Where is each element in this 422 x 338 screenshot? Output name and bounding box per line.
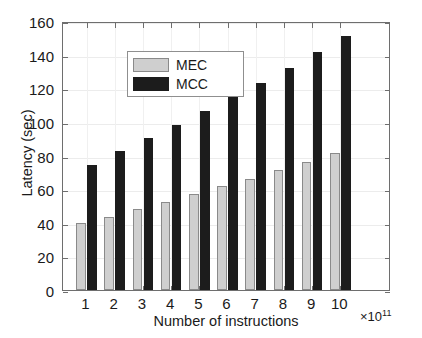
bar-mec-3 (133, 209, 143, 290)
plot-area: MEC MCC (62, 22, 390, 291)
legend-swatch-mec-icon (133, 58, 169, 72)
x-tick-mark (228, 23, 229, 28)
x-tick-mark (256, 23, 257, 28)
y-tick-mark (63, 57, 68, 58)
x-tick-mark (284, 23, 285, 28)
y-tick-mark (63, 225, 68, 226)
legend-item-mec: MEC (133, 56, 238, 73)
y-tick-label: 60 (10, 183, 54, 198)
y-tick-mark (385, 258, 390, 259)
y-tick-label: 100 (10, 116, 54, 131)
bar-mcc-4 (172, 125, 182, 290)
x-tick-mark (199, 23, 200, 28)
x-tick-label: 6 (212, 296, 242, 311)
x-axis-title: Number of instructions (62, 313, 390, 329)
x-tick-mark (143, 23, 144, 28)
y-tick-mark (385, 57, 390, 58)
y-tick-label: 20 (10, 250, 54, 265)
y-tick-mark (63, 191, 68, 192)
x-tick-label: 4 (155, 296, 185, 311)
bar-mcc-3 (144, 138, 154, 290)
y-tick-mark (385, 225, 390, 226)
x-tick-label: 9 (296, 296, 326, 311)
bar-mcc-1 (87, 165, 97, 290)
y-tick-mark (63, 158, 68, 159)
exponent-prefix: ×10 (360, 309, 382, 324)
legend-swatch-mcc-icon (133, 77, 169, 91)
y-tick-mark (385, 158, 390, 159)
bar-mcc-8 (285, 68, 295, 290)
bar-mcc-7 (256, 83, 266, 290)
legend: MEC MCC (127, 51, 244, 97)
bar-mec-1 (76, 223, 86, 290)
y-tick-mark (63, 23, 68, 24)
exponent-power: 11 (382, 308, 391, 318)
bar-mec-9 (302, 162, 312, 290)
bar-mec-4 (161, 202, 171, 290)
bar-mec-5 (189, 194, 199, 290)
x-tick-mark (87, 23, 88, 28)
legend-label-mec: MEC (176, 58, 207, 72)
y-tick-mark (385, 90, 390, 91)
y-tick-mark (63, 90, 68, 91)
y-tick-mark (63, 292, 68, 293)
legend-item-mcc: MCC (133, 75, 238, 92)
y-tick-label: 0 (10, 284, 54, 299)
bar-mec-7 (245, 179, 255, 290)
bar-mec-8 (274, 170, 284, 290)
bar-mec-10 (330, 153, 340, 290)
y-tick-mark (63, 258, 68, 259)
bar-mcc-9 (313, 52, 323, 290)
y-tick-mark (385, 23, 390, 24)
y-tick-label: 140 (10, 49, 54, 64)
y-tick-mark (385, 191, 390, 192)
y-tick-label: 120 (10, 82, 54, 97)
bar-mcc-6 (228, 97, 238, 290)
y-tick-mark (385, 124, 390, 125)
x-tick-mark (340, 23, 341, 28)
y-tick-label: 40 (10, 217, 54, 232)
x-tick-label: 1 (71, 296, 101, 311)
x-axis-exponent-label: ×1011 (360, 308, 391, 324)
x-tick-label: 7 (240, 296, 270, 311)
y-tick-mark (385, 292, 390, 293)
bar-mec-6 (217, 186, 227, 290)
figure-bar-chart: Latency (sec) 020406080100120140160 1234… (0, 0, 422, 338)
x-tick-label: 8 (268, 296, 298, 311)
x-tick-label: 10 (324, 296, 354, 311)
x-tick-label: 2 (99, 296, 129, 311)
bar-mcc-2 (115, 151, 125, 290)
x-tick-mark (171, 23, 172, 28)
y-tick-label: 160 (10, 15, 54, 30)
bar-mcc-5 (200, 111, 210, 290)
x-tick-label: 3 (127, 296, 157, 311)
x-tick-label: 5 (183, 296, 213, 311)
x-tick-mark (115, 23, 116, 28)
bar-mec-2 (104, 217, 114, 290)
x-tick-mark (312, 23, 313, 28)
legend-label-mcc: MCC (176, 77, 208, 91)
bar-mcc-10 (341, 36, 351, 290)
y-tick-label: 80 (10, 150, 54, 165)
y-tick-mark (63, 124, 68, 125)
